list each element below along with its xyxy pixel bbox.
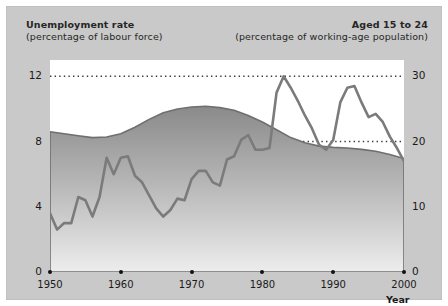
left-axis-caption: Unemployment rate (percentage of labour … [26, 19, 163, 42]
right-axis-caption: Aged 15 to 24 (percentage of working-age… [235, 19, 428, 42]
x-axis-tick-marker [331, 270, 335, 274]
x-axis-tick-label: 1980 [242, 279, 282, 290]
x-axis-tick-marker [402, 270, 406, 274]
x-axis-tick-label: 1990 [313, 279, 353, 290]
left-axis-tick-label: 4 [16, 200, 42, 212]
left-axis-caption-line2: (percentage of labour force) [26, 31, 163, 43]
x-axis-tick-marker [260, 270, 264, 274]
x-axis-tick-label: 1970 [172, 279, 212, 290]
right-axis-caption-line1: Aged 15 to 24 [235, 19, 428, 31]
x-axis-tick-marker [119, 270, 123, 274]
left-axis-tick-label: 12 [16, 69, 42, 81]
plot-area [50, 60, 404, 272]
chart-panel: Unemployment rate (percentage of labour … [6, 6, 442, 300]
x-axis-title: Year [386, 294, 410, 305]
left-axis-caption-line1: Unemployment rate [26, 19, 163, 31]
x-axis-tick-label: 2000 [384, 279, 424, 290]
x-axis-tick-label: 1960 [101, 279, 141, 290]
x-axis-tick-marker [190, 270, 194, 274]
x-axis-tick-marker [48, 270, 52, 274]
chart-figure: Unemployment rate (percentage of labour … [0, 0, 448, 306]
right-axis-tick-label: 10 [412, 200, 438, 212]
x-axis-tick-label: 1950 [30, 279, 70, 290]
left-axis-tick-label: 8 [16, 135, 42, 147]
right-axis-tick-label: 30 [412, 69, 438, 81]
left-axis-tick-label: 0 [16, 265, 42, 277]
chart-svg [50, 60, 404, 272]
right-axis-caption-line2: (percentage of working-age population) [235, 31, 428, 43]
right-axis-tick-label: 20 [412, 135, 438, 147]
youth-population-area [50, 106, 404, 272]
right-axis-tick-label: 0 [412, 265, 438, 277]
